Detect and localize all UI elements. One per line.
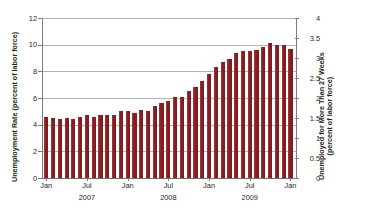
x-axis-year-label: 2008 — [151, 193, 185, 202]
y-axis-tick-left: 2 — [13, 147, 37, 156]
bar — [71, 119, 75, 178]
bar-series — [43, 18, 295, 178]
y-axis-tickmark-left — [38, 18, 42, 19]
y-axis-tick-right: 3.5 — [298, 34, 320, 43]
y-axis-tickmark-left — [38, 178, 42, 179]
y-axis-title-left: Unemployment Rate (percent of labor forc… — [11, 32, 20, 182]
bar — [207, 74, 211, 178]
bar — [139, 110, 143, 178]
bar — [241, 51, 245, 178]
bar — [153, 106, 157, 178]
y-axis-tickmark-right — [295, 78, 299, 79]
unemployment-rate-chart: Unemployment Rate (percent of labor forc… — [0, 0, 375, 212]
y-axis-tick-left: 12 — [13, 14, 37, 23]
y-axis-tick-right: 2.5 — [298, 74, 320, 83]
bar — [105, 115, 109, 178]
bar — [268, 43, 272, 178]
bar — [112, 115, 116, 178]
bar — [132, 113, 136, 178]
x-axis-year-label: 2009 — [233, 193, 267, 202]
x-axis-tick-label: Jul — [238, 181, 262, 190]
bar — [193, 87, 197, 178]
x-axis-tick-label: Jul — [75, 181, 99, 190]
y-axis-tickmark-left — [38, 125, 42, 126]
bar — [180, 97, 184, 178]
y-axis-tickmark-left — [38, 151, 42, 152]
y-axis-tickmark-right — [295, 98, 299, 99]
y-axis-tick-left: 10 — [13, 40, 37, 49]
y-axis-tickmark-right — [295, 38, 299, 39]
bar — [85, 115, 89, 178]
bar — [51, 118, 55, 178]
y-axis-tick-right: 3 — [298, 54, 320, 63]
bar — [282, 45, 286, 178]
bar — [187, 91, 191, 178]
bar — [166, 101, 170, 178]
bar — [275, 45, 279, 178]
x-axis-tick-label: Jan — [116, 181, 140, 190]
bar — [288, 49, 292, 178]
y-axis-tickmark-left — [38, 45, 42, 46]
bar — [44, 117, 48, 178]
y-axis-tickmark-right — [295, 138, 299, 139]
y-axis-tick-right: 1.5 — [298, 114, 320, 123]
y-axis-tick-right: 4 — [298, 14, 320, 23]
y-axis-tickmark-right — [295, 58, 299, 59]
bar — [261, 47, 265, 178]
x-axis-tick-label: Jan — [278, 181, 302, 190]
bar — [119, 111, 123, 178]
y-axis-title-right: Unemployed for More Than 27 Weeks (perce… — [318, 52, 335, 180]
bar — [65, 118, 69, 178]
bar — [78, 117, 82, 178]
y-axis-tickmark-right — [295, 178, 299, 179]
x-axis-tick-label: Jan — [197, 181, 221, 190]
y-axis-tick-left: 8 — [13, 67, 37, 76]
x-axis-tick-label: Jul — [156, 181, 180, 190]
y-axis-tick-right: 2 — [298, 94, 320, 103]
y-axis-tickmark-left — [38, 71, 42, 72]
bar — [98, 115, 102, 178]
x-axis-year-label: 2007 — [70, 193, 104, 202]
y-axis-tick-right: 0.5 — [298, 154, 320, 163]
bar — [254, 50, 258, 178]
y-axis-tickmark-right — [295, 158, 299, 159]
y-axis-tickmark-right — [295, 118, 299, 119]
y-axis-tick-left: 4 — [13, 120, 37, 129]
bar — [200, 81, 204, 178]
bar — [214, 67, 218, 178]
y-axis-title-right-line2: (percent of labor force) — [326, 52, 334, 180]
bar — [146, 111, 150, 178]
bar — [234, 53, 238, 178]
bar — [159, 103, 163, 178]
y-axis-tick-left: 6 — [13, 94, 37, 103]
bar — [58, 119, 62, 178]
y-axis-tickmark-left — [38, 98, 42, 99]
bar — [227, 59, 231, 178]
bar — [173, 97, 177, 178]
bar — [92, 117, 96, 178]
y-axis-tick-right: 1 — [298, 134, 320, 143]
x-axis-tick-label: Jan — [34, 181, 58, 190]
bar — [126, 111, 130, 178]
bar — [221, 62, 225, 178]
bar — [248, 51, 252, 178]
y-axis-tickmark-right — [295, 18, 299, 19]
